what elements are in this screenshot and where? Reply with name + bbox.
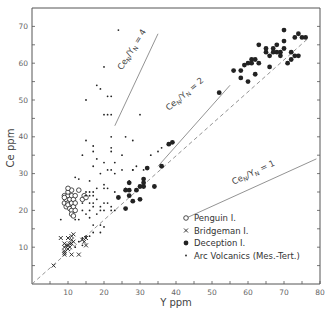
reference-lines: CeN​/YN​ = 4CeN​/YN​ = 2CeN​/YN​ = 1 [32, 27, 316, 284]
x-axis-title: Y ppm [159, 297, 192, 308]
data-point [253, 57, 258, 62]
data-point [100, 224, 102, 226]
data-point [231, 68, 236, 73]
data-point [256, 42, 261, 47]
data-point [82, 210, 84, 212]
data-point [103, 187, 105, 189]
data-point [100, 88, 102, 90]
data-point [66, 236, 70, 240]
data-point [103, 184, 105, 186]
data-point [110, 136, 112, 138]
data-point [96, 198, 98, 200]
data-point [89, 217, 91, 219]
data-point [78, 219, 80, 221]
data-point [74, 176, 76, 178]
legend-label: Bridgeman I. [194, 226, 249, 236]
data-point [103, 162, 105, 164]
x-tick-label: 40 [171, 288, 181, 297]
data-point [296, 31, 301, 36]
data-point [89, 191, 91, 193]
data-point [103, 66, 105, 68]
data-point [145, 166, 150, 171]
data-point [150, 154, 152, 156]
data-point [103, 202, 105, 204]
series-penguin-i [62, 186, 88, 218]
legend-marker-icon [184, 216, 189, 221]
data-point [92, 232, 94, 234]
ratio-line-label: CeN​/YN​ = 4 [115, 27, 149, 72]
data-point [82, 240, 86, 244]
data-point [114, 191, 116, 193]
x-tick-label: 20 [99, 288, 109, 297]
data-point [77, 253, 81, 257]
data-point [114, 173, 116, 175]
data-point [84, 243, 88, 247]
data-point [159, 164, 164, 169]
data-point [110, 210, 112, 212]
y-tick-label: 70 [18, 22, 28, 31]
data-point [238, 76, 243, 81]
data-point [71, 232, 75, 236]
data-point [152, 184, 157, 189]
data-point [92, 202, 94, 204]
data-point [89, 210, 91, 212]
legend: Penguin I.Bridgeman I.Deception I.Arc Vo… [184, 213, 300, 261]
y-tick-label: 60 [18, 59, 28, 68]
data-point [92, 224, 94, 226]
data-point [143, 169, 145, 171]
data-point [100, 206, 102, 208]
data-point [128, 180, 130, 182]
data-point [82, 154, 84, 156]
legend-marker-icon [185, 255, 187, 257]
data-point [303, 35, 308, 40]
x-tick-label: 80 [315, 288, 325, 297]
scatter-chart: 1020304050607080 10203040506070 CeN​/YN​… [0, 0, 329, 318]
data-point [264, 46, 269, 51]
data-point [100, 173, 102, 175]
data-point [157, 151, 159, 153]
ratio-line-label: CeN​/YN​ = 1 [230, 158, 276, 187]
data-point [52, 264, 56, 268]
data-point [92, 195, 94, 197]
x-tick-label: 30 [135, 288, 145, 297]
data-point [127, 188, 132, 193]
data-point [71, 240, 75, 244]
y-tick-label: 50 [18, 96, 28, 105]
data-point [59, 236, 63, 240]
data-point [70, 253, 74, 257]
data-point [96, 187, 98, 189]
data-point [256, 61, 261, 66]
data-point [289, 50, 294, 55]
data-point [68, 245, 72, 249]
data-point [74, 246, 76, 248]
data-point [82, 202, 84, 204]
legend-marker-icon [184, 229, 188, 233]
data-point [271, 46, 276, 51]
data-point [161, 147, 163, 149]
data-point [82, 237, 84, 239]
data-point [130, 199, 135, 204]
legend-marker-icon [184, 241, 189, 246]
data-point [121, 154, 123, 156]
data-point [77, 188, 82, 193]
data-point [116, 195, 121, 200]
data-point [92, 151, 94, 153]
data-point [85, 191, 87, 193]
data-point [110, 206, 112, 208]
y-axis-title: Ce ppm [5, 129, 16, 168]
data-point [110, 169, 112, 171]
data-point [278, 50, 283, 55]
data-point [103, 210, 105, 212]
data-point [89, 235, 91, 237]
y-tick-label: 10 [18, 243, 28, 252]
data-point [282, 28, 287, 33]
x-tick-label: 60 [243, 288, 253, 297]
y-tick-label: 40 [18, 132, 28, 141]
data-point [96, 158, 98, 160]
data-point [253, 72, 258, 77]
data-point [141, 184, 146, 189]
data-point [103, 114, 105, 116]
x-tick-label: 10 [63, 288, 73, 297]
data-point [73, 193, 78, 198]
data-point [136, 165, 138, 167]
